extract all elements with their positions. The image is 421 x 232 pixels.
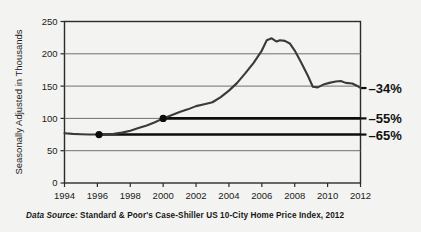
x-tick-label-2008: 2008 [284, 190, 305, 201]
caption-prefix: Data Source: [26, 211, 78, 220]
x-tick-label-2002: 2002 [185, 190, 206, 201]
y-tick-label-100: 100 [42, 113, 58, 124]
home-price-index-line-chart: 1994199619982000200220042006200820102012… [0, 0, 421, 232]
percent-label--65: –65% [369, 128, 403, 143]
data-point-marker [160, 115, 167, 122]
data-source-caption: Data Source: Standard & Poor's Case-Shil… [26, 211, 344, 220]
caption-text: Standard & Poor's Case-Shiller US 10-Cit… [80, 211, 344, 220]
x-tick-label-1998: 1998 [120, 190, 141, 201]
x-tick-label-2012: 2012 [350, 190, 371, 201]
data-point-marker [95, 131, 102, 138]
x-tick-label-2004: 2004 [218, 190, 239, 201]
y-tick-label-0: 0 [52, 177, 57, 188]
percent-annotations: –34%–55%–65% [369, 81, 403, 143]
y-tick-label-50: 50 [47, 145, 58, 156]
x-tick-label-2010: 2010 [317, 190, 338, 201]
chart-figure: 1994199619982000200220042006200820102012… [0, 0, 421, 232]
x-tick-label-2000: 2000 [153, 190, 174, 201]
y-axis-title: Seasonally Adjusted in Thousands [13, 29, 24, 174]
y-tick-label-150: 150 [42, 81, 58, 92]
x-tick-label-1994: 1994 [54, 190, 75, 201]
x-tick-label-1996: 1996 [87, 190, 108, 201]
percent-label--55: –55% [369, 111, 403, 126]
x-tick-label-2006: 2006 [251, 190, 272, 201]
percent-label--34: –34% [369, 81, 403, 96]
y-tick-label-250: 250 [42, 16, 58, 27]
y-tick-label-200: 200 [42, 48, 58, 59]
